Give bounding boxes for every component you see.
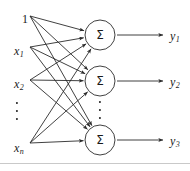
- connection-edge: [30, 47, 85, 74]
- connection-edge: [30, 16, 92, 126]
- input-to-neuron-edges: [30, 16, 92, 143]
- neuron-sigma-1: Σ: [96, 29, 104, 41]
- neuron-sigma-3: Σ: [96, 134, 104, 146]
- dot: [16, 110, 18, 112]
- neuron-sigma-2: Σ: [96, 75, 104, 87]
- connection-edge: [30, 38, 84, 47]
- subscript: 1: [176, 35, 180, 44]
- network-edges-svg: [0, 0, 190, 171]
- connection-edge: [30, 80, 87, 129]
- connection-edge: [30, 49, 91, 143]
- bottom-divider: [0, 163, 190, 164]
- input-label-x2: x2: [14, 78, 24, 92]
- input-label-x1: x1: [14, 45, 24, 59]
- neural-network-diagram: 1 x1 x2 xn Σ Σ Σ y1 y2 y3: [0, 0, 190, 171]
- dot: [16, 102, 18, 104]
- neuron-to-output-edges: [117, 35, 163, 140]
- input-label-bias: 1: [22, 13, 28, 25]
- connection-edge: [30, 80, 84, 81]
- input-label-xn: xn: [14, 142, 24, 156]
- connection-edge: [30, 141, 84, 143]
- connection-edge: [30, 47, 90, 127]
- connection-edge: [30, 44, 86, 80]
- dot: [99, 109, 101, 111]
- output-label-y3: y3: [170, 135, 180, 149]
- subscript: n: [20, 147, 24, 156]
- output-label-y2: y2: [170, 76, 180, 90]
- dot: [99, 117, 101, 119]
- dot: [99, 101, 101, 103]
- subscript: 2: [176, 81, 180, 90]
- input-ellipsis-icon: [16, 102, 18, 120]
- subscript: 1: [20, 50, 24, 59]
- connection-edge: [30, 92, 88, 143]
- subscript: 3: [176, 140, 180, 149]
- dot: [16, 118, 18, 120]
- subscript: 2: [20, 83, 24, 92]
- output-label-y1: y1: [170, 30, 180, 44]
- neuron-ellipsis-icon: [99, 101, 101, 119]
